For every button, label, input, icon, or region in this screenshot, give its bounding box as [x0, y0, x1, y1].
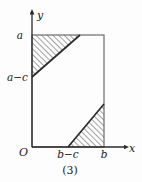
y-tick-label-a-minus-c: a−c — [7, 71, 28, 83]
y-axis-label: y — [36, 9, 44, 22]
figure-container: y x O a a−c b−c b (3) — [0, 0, 142, 182]
figure-caption: (3) — [62, 164, 78, 177]
geometry-figure: y x O a a−c b−c b (3) — [0, 0, 142, 182]
x-tick-label-b: b — [101, 148, 108, 160]
x-axis-label: x — [129, 142, 136, 155]
x-tick-label-b-minus-c: b−c — [57, 148, 79, 160]
origin-label: O — [19, 146, 28, 159]
y-tick-label-a: a — [17, 29, 23, 41]
